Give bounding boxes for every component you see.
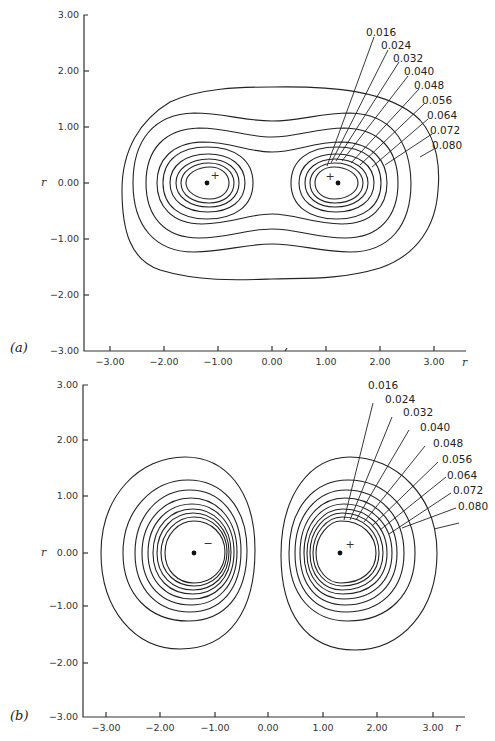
sign-mark: + [210,169,219,182]
sign-mark: + [345,538,354,551]
y-tick-label: 3.00 [58,9,79,20]
sign-mark: − [203,537,212,550]
y-tick-label: −3.00 [50,345,79,356]
panel-a: 3.00 2.00 1.00 0.00 −1.00 −2.00 −3.00 −3… [10,9,468,369]
panel-label: (b) [10,708,28,723]
x-tick-label: 0.00 [257,722,278,733]
y-tick-label: 3.00 [57,379,78,390]
y-axis-label: r [41,546,47,559]
x-tick-label: 3.00 [423,356,444,367]
contour-label: 0.040 [420,421,450,433]
nucleus-dot [205,181,210,186]
y-tick-label: 0.00 [57,547,78,558]
y-tick-label: −2.00 [49,657,78,668]
x-tick-label: −1.00 [203,356,232,367]
x-axis-label: r [455,721,461,734]
panel-label: (a) [10,340,28,355]
panel-a-contour-labels: 0.016 0.024 0.032 0.040 0.048 0.056 0.06… [366,26,462,151]
panel-b-y-tick-labels: 3.00 2.00 1.00 0.00 −1.00 −2.00 −3.00 [49,379,78,722]
x-tick-label: −1.00 [200,722,229,733]
y-tick-label: −2.00 [50,289,79,300]
y-axis-label: r [41,176,47,189]
panel-a-x-ticks [110,346,434,351]
contour-label: 0.032 [403,406,433,418]
y-tick-label: 2.00 [58,65,79,76]
panel-a-contours [122,87,439,280]
x-tick-label: −2.00 [145,722,174,733]
panel-a-y-tick-labels: 3.00 2.00 1.00 0.00 −1.00 −2.00 −3.00 [50,9,79,356]
contour-label: 0.040 [404,65,434,77]
contour-label: 0.016 [366,26,396,38]
contour-label: 0.024 [381,39,411,51]
x-tick-label: −2.00 [149,356,178,367]
x-tick-label: −3.00 [95,356,124,367]
x-tick-label: 2.00 [366,722,387,733]
contour-label: 0.056 [442,453,472,465]
x-tick-label: 2.00 [369,356,390,367]
panel-b-x-ticks [106,712,433,717]
panel-a-y-ticks [84,71,89,295]
y-tick-label: 1.00 [57,490,78,501]
panel-b-left-contours [101,457,255,649]
contour-label: 0.024 [385,393,415,405]
x-tick-label: 1.00 [315,356,336,367]
x-tick-label: 1.00 [312,722,333,733]
contour-label: 0.048 [414,79,444,91]
sign-mark: + [325,170,334,183]
y-tick-label: −3.00 [49,711,78,722]
nucleus-dot [336,181,341,186]
panel-b-axes [83,385,465,717]
contour-label: 0.072 [430,124,460,136]
contour-label: 0.072 [453,484,483,496]
contour-label: 0.080 [432,139,462,151]
y-tick-label: 1.00 [58,121,79,132]
contour-label: 0.048 [433,437,463,449]
nucleus-dot [192,551,197,556]
panel-a-x-tick-labels: −3.00 −2.00 −1.00 0.00 1.00 2.00 3.00 [95,356,444,367]
contour-label: 0.064 [427,109,457,121]
y-tick-label: 2.00 [57,434,78,445]
figure: 3.00 2.00 1.00 0.00 −1.00 −2.00 −3.00 −3… [0,0,495,741]
y-tick-label: −1.00 [49,600,78,611]
contour-label: 0.032 [393,52,423,64]
contour-label: 0.064 [447,469,477,481]
panel-b-y-ticks [83,440,88,663]
x-tick-label: 3.00 [422,722,443,733]
x-tick-label: −3.00 [91,722,120,733]
contour-label: 0.080 [458,500,488,512]
panel-b: 3.00 2.00 1.00 0.00 −1.00 −2.00 −3.00 −3… [10,379,488,734]
panel-b-x-tick-labels: −3.00 −2.00 −1.00 0.00 1.00 2.00 3.00 [91,722,443,733]
nucleus-dot [338,551,343,556]
contour-label: 0.056 [422,94,452,106]
x-axis-label: r [462,356,468,369]
x-tick-label: 0.00 [261,356,282,367]
y-tick-label: 0.00 [58,177,79,188]
y-tick-label: −1.00 [50,233,79,244]
contour-label: 0.016 [368,379,398,391]
